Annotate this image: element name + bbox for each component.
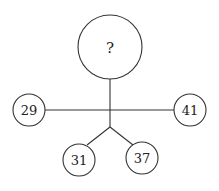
center-node: ? — [78, 15, 142, 79]
edge-branch-left — [87, 127, 110, 145]
node-right-label: 41 — [182, 103, 199, 118]
node-bottom-right: 37 — [126, 142, 158, 174]
node-left-label: 29 — [21, 103, 38, 118]
node-right: 41 — [174, 94, 206, 126]
node-left: 29 — [13, 94, 45, 126]
node-bottom-left: 31 — [63, 144, 95, 176]
node-bottom-left-label: 31 — [71, 153, 88, 168]
center-node-label: ? — [106, 39, 114, 57]
node-bottom-right-label: 37 — [134, 151, 151, 166]
number-puzzle-diagram: ? 29 41 31 37 — [0, 0, 219, 191]
edge-branch-right — [110, 127, 133, 145]
